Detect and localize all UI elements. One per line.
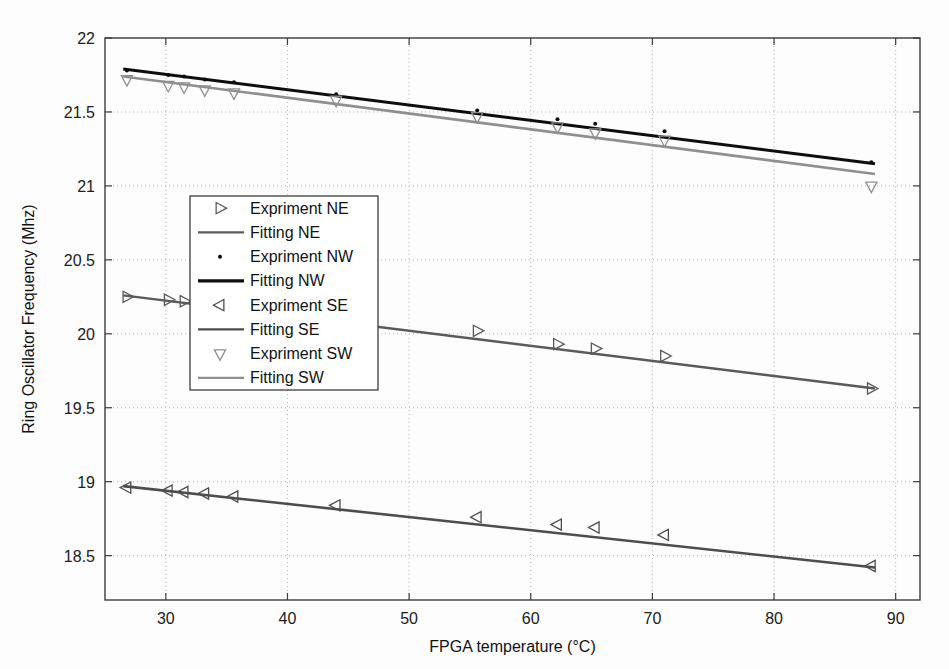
ring-oscillator-frequency-chart: 3040506070809018.51919.52020.52121.522FP…: [0, 0, 949, 669]
x-axis-title: FPGA temperature (°C): [429, 638, 595, 655]
data-point-dot: [556, 117, 560, 121]
data-point-dot: [125, 69, 129, 73]
legend-item-label: Fitting NW: [250, 272, 326, 289]
y-tick-label: 20.5: [64, 252, 95, 269]
data-point-dot: [166, 73, 170, 77]
data-point-dot: [182, 74, 186, 78]
x-tick-label: 60: [522, 610, 540, 627]
x-tick-label: 50: [400, 610, 418, 627]
y-tick-label: 19.5: [64, 400, 95, 417]
x-tick-label: 70: [643, 610, 661, 627]
y-tick-label: 18.5: [64, 548, 95, 565]
data-point-dot: [203, 77, 207, 81]
legend-item-label: Expriment NW: [250, 248, 354, 265]
x-tick-label: 40: [279, 610, 297, 627]
data-point-dot: [475, 108, 479, 112]
y-axis-title: Ring Oscillator Frequency (Mhz): [20, 204, 37, 433]
y-tick-label: 21.5: [64, 104, 95, 121]
y-tick-label: 19: [77, 474, 95, 491]
data-point-dot: [869, 160, 873, 164]
figure-canvas: 3040506070809018.51919.52020.52121.522FP…: [0, 0, 949, 669]
data-point-dot: [334, 92, 338, 96]
x-tick-label: 30: [157, 610, 175, 627]
y-tick-label: 22: [77, 30, 95, 47]
y-tick-label: 21: [77, 178, 95, 195]
legend: Expriment NEFitting NEExpriment NWFittin…: [190, 196, 378, 390]
legend-item-label: Expriment SW: [250, 345, 353, 362]
legend-item-label: Fitting NE: [250, 224, 320, 241]
x-tick-label: 90: [887, 610, 905, 627]
data-point-dot: [663, 129, 667, 133]
legend-item-label: Expriment NE: [250, 200, 349, 217]
legend-item-label: Expriment SE: [250, 297, 348, 314]
y-tick-label: 20: [77, 326, 95, 343]
legend-item-label: Fitting SW: [250, 369, 325, 386]
data-point-dot: [593, 122, 597, 126]
data-point-dot: [218, 255, 222, 259]
x-tick-label: 80: [765, 610, 783, 627]
data-point-dot: [232, 80, 236, 84]
legend-item-label: Fitting SE: [250, 321, 319, 338]
